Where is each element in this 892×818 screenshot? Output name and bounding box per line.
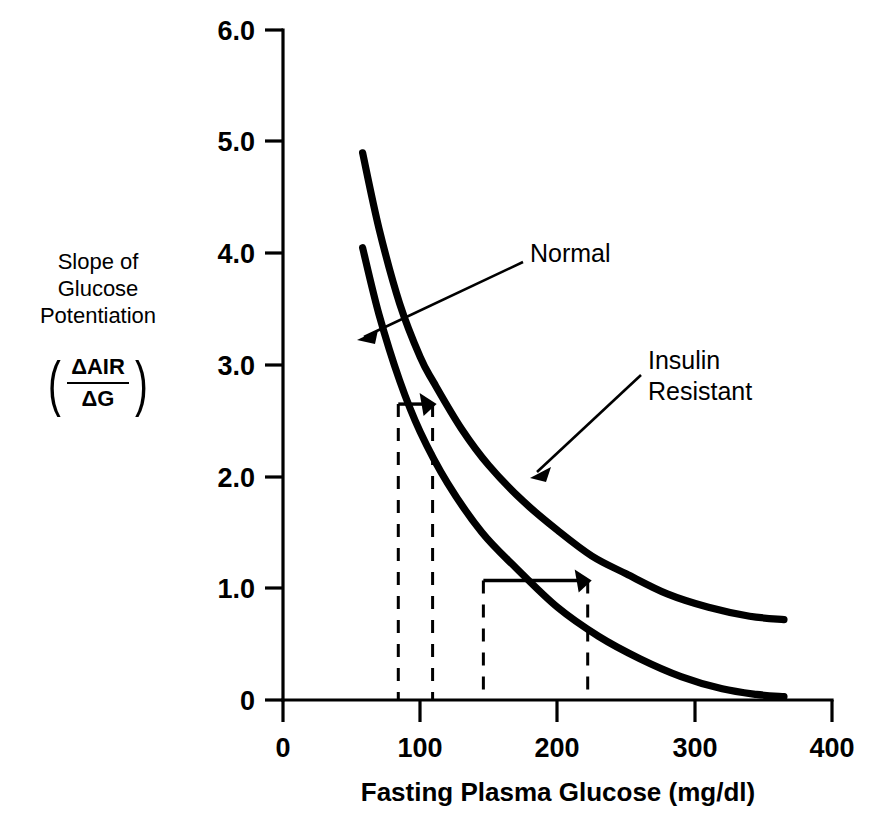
open-paren: ( (48, 352, 61, 414)
y-axis-unit-fraction: ( ΔAIR ΔG ) (0, 352, 196, 414)
close-paren: ) (135, 352, 148, 414)
y-axis-ticks (265, 30, 283, 700)
y-tick-label-4: 4.0 (217, 239, 255, 269)
x-axis-ticks (283, 700, 832, 722)
fraction: ΔAIR ΔG (65, 354, 131, 412)
x-tick-label-300: 300 (672, 733, 717, 763)
x-tick-label-400: 400 (809, 733, 854, 763)
glucose-shift-arrows (398, 393, 591, 592)
y-axis-title-line2: Glucose (0, 275, 196, 302)
y-axis-title: Slope of Glucose Potentiation (0, 248, 196, 329)
y-tick-label-2: 2.0 (217, 463, 255, 493)
arrowhead-normal-icon (357, 330, 378, 344)
y-tick-label-6: 6.0 (217, 16, 255, 46)
annotation-label-insulin-resistant-line2: Resistant (648, 377, 752, 405)
series-line-normal (363, 248, 784, 697)
x-tick-label-0: 0 (275, 733, 290, 763)
y-tick-label-0: 0 (240, 686, 255, 716)
y-tick-label-3: 3.0 (217, 351, 255, 381)
y-tick-label-1: 1.0 (217, 574, 255, 604)
y-axis-title-line1: Slope of (0, 248, 196, 275)
annotation-label-insulin-resistant-line1: Insulin (648, 346, 720, 374)
fraction-denominator: ΔG (67, 384, 129, 412)
chart-figure: 6.0 5.0 4.0 3.0 2.0 1.0 0 0 100 200 300 … (0, 0, 892, 818)
x-tick-label-100: 100 (397, 733, 442, 763)
fraction-numerator: ΔAIR (67, 354, 129, 384)
y-tick-label-5: 5.0 (217, 127, 255, 157)
x-axis-title: Fasting Plasma Glucose (mg/dl) (361, 777, 755, 807)
x-tick-label-200: 200 (534, 733, 579, 763)
y-axis-title-line3: Potentiation (0, 302, 196, 329)
annotation-label-normal: Normal (530, 239, 611, 267)
annotation-leader-insulin-resistant (530, 375, 641, 482)
